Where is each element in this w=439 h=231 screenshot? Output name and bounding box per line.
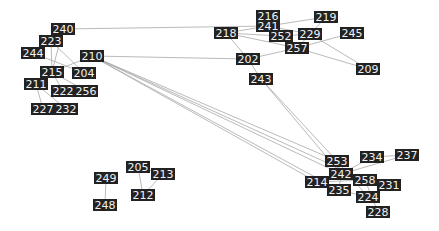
node-242[interactable]: 242 bbox=[329, 168, 353, 181]
node-237[interactable]: 237 bbox=[395, 149, 419, 162]
node-245[interactable]: 245 bbox=[340, 27, 364, 40]
node-label: 222 bbox=[53, 85, 74, 98]
node-227[interactable]: 227 bbox=[31, 103, 55, 116]
node-label: 228 bbox=[368, 206, 389, 219]
node-243[interactable]: 243 bbox=[249, 73, 273, 86]
node-label: 211 bbox=[26, 78, 47, 91]
node-label: 243 bbox=[251, 73, 272, 86]
node-210[interactable]: 210 bbox=[80, 50, 104, 63]
node-label: 210 bbox=[82, 50, 103, 63]
node-214[interactable]: 214 bbox=[305, 176, 329, 189]
node-219[interactable]: 219 bbox=[314, 11, 338, 24]
node-235[interactable]: 235 bbox=[327, 184, 351, 197]
node-204[interactable]: 204 bbox=[72, 67, 96, 80]
node-256[interactable]: 256 bbox=[74, 85, 98, 98]
node-label: 258 bbox=[355, 174, 376, 187]
node-label: 218 bbox=[216, 27, 237, 40]
edge-243-253 bbox=[261, 79, 337, 161]
node-212[interactable]: 212 bbox=[131, 189, 155, 202]
node-label: 256 bbox=[76, 85, 97, 98]
node-209[interactable]: 209 bbox=[356, 63, 380, 76]
node-253[interactable]: 253 bbox=[325, 155, 349, 168]
node-label: 224 bbox=[358, 191, 379, 204]
node-label: 244 bbox=[23, 47, 44, 60]
node-202[interactable]: 202 bbox=[236, 53, 260, 66]
node-label: 237 bbox=[397, 149, 418, 162]
node-label: 257 bbox=[287, 42, 308, 55]
node-label: 213 bbox=[153, 168, 174, 181]
node-228[interactable]: 228 bbox=[366, 206, 390, 219]
edge-210-202 bbox=[92, 56, 248, 59]
node-244[interactable]: 244 bbox=[21, 47, 45, 60]
node-label: 235 bbox=[329, 184, 350, 197]
node-label: 214 bbox=[307, 176, 328, 189]
node-label: 248 bbox=[95, 199, 116, 212]
node-label: 232 bbox=[56, 103, 77, 116]
node-label: 229 bbox=[300, 28, 321, 41]
node-label: 227 bbox=[33, 103, 54, 116]
edge-210-214 bbox=[92, 56, 317, 182]
node-label: 245 bbox=[342, 27, 363, 40]
node-257[interactable]: 257 bbox=[285, 42, 309, 55]
node-label: 204 bbox=[74, 67, 95, 80]
node-258[interactable]: 258 bbox=[353, 174, 377, 187]
node-label: 205 bbox=[128, 161, 149, 174]
node-234[interactable]: 234 bbox=[360, 151, 384, 164]
node-222[interactable]: 222 bbox=[51, 85, 75, 98]
node-249[interactable]: 249 bbox=[94, 172, 118, 185]
node-213[interactable]: 213 bbox=[151, 168, 175, 181]
node-218[interactable]: 218 bbox=[214, 27, 238, 40]
node-231[interactable]: 231 bbox=[377, 179, 401, 192]
node-label: 242 bbox=[331, 168, 352, 181]
node-label: 219 bbox=[316, 11, 337, 24]
node-205[interactable]: 205 bbox=[126, 161, 150, 174]
node-label: 249 bbox=[96, 172, 117, 185]
edges-layer bbox=[33, 16, 407, 212]
node-211[interactable]: 211 bbox=[24, 78, 48, 91]
node-label: 202 bbox=[238, 53, 259, 66]
node-232[interactable]: 232 bbox=[54, 103, 78, 116]
node-label: 209 bbox=[358, 63, 379, 76]
network-graph: 2402232442102152042112222562272322162192… bbox=[0, 0, 439, 231]
node-label: 231 bbox=[379, 179, 400, 192]
edge-210-253 bbox=[92, 56, 337, 161]
node-248[interactable]: 248 bbox=[93, 199, 117, 212]
node-label: 253 bbox=[327, 155, 348, 168]
node-label: 223 bbox=[41, 35, 62, 48]
node-224[interactable]: 224 bbox=[356, 191, 380, 204]
node-229[interactable]: 229 bbox=[298, 28, 322, 41]
node-label: 234 bbox=[362, 151, 383, 164]
node-label: 212 bbox=[133, 189, 154, 202]
edge-210-242 bbox=[92, 56, 341, 174]
